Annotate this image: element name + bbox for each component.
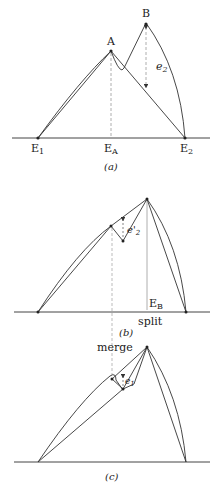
label-e2: e2 — [156, 60, 168, 74]
label-e2-axis: E2 — [180, 142, 193, 156]
diagram-canvas: A B e2 E1 EA E2 (a) e'2 EB split (b) mer… — [0, 0, 223, 488]
label-e1: E1 — [31, 142, 44, 156]
point-b-dip — [122, 240, 125, 243]
label-split: split — [138, 315, 163, 328]
point-c-dip — [122, 388, 125, 391]
point-e2 — [183, 136, 186, 139]
point-a — [109, 49, 112, 52]
curve-b-e2 — [146, 23, 185, 138]
point-e1 — [36, 136, 39, 139]
panel-a: A B e2 E1 EA E2 (a) — [12, 7, 210, 172]
label-b: B — [142, 7, 150, 20]
curve-a-b — [111, 23, 146, 70]
point-b — [144, 22, 147, 25]
caption-c: (c) — [105, 471, 119, 482]
curve-c-left — [38, 375, 123, 462]
panel-c: merge e1 (c) — [14, 341, 210, 482]
label-eb: EB — [149, 297, 163, 311]
point-b-left — [37, 311, 40, 314]
label-ea: EA — [104, 142, 118, 156]
point-b-peak — [146, 198, 149, 201]
point-b-a — [110, 225, 113, 228]
label-e1: e1 — [125, 376, 135, 388]
point-c-a — [111, 378, 114, 381]
label-merge: merge — [97, 341, 133, 354]
label-a: A — [106, 35, 116, 48]
point-c-peak — [146, 346, 149, 349]
label-e2-prime: e'2 — [127, 224, 141, 237]
point-b-right — [185, 311, 188, 314]
caption-b: (b) — [119, 327, 133, 338]
caption-a: (a) — [104, 161, 118, 172]
